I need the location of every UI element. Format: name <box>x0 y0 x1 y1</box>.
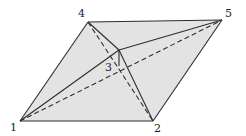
vertex-label-5: 5 <box>225 7 232 20</box>
vertex-label-1: 1 <box>10 121 17 134</box>
vertex-label-2: 2 <box>154 122 161 135</box>
vertex-label-3: 3 <box>105 61 112 74</box>
diagram-canvas: 12345 <box>0 0 246 136</box>
polyhedron-figure: 12345 <box>0 0 246 136</box>
vertex-label-4: 4 <box>78 7 85 20</box>
